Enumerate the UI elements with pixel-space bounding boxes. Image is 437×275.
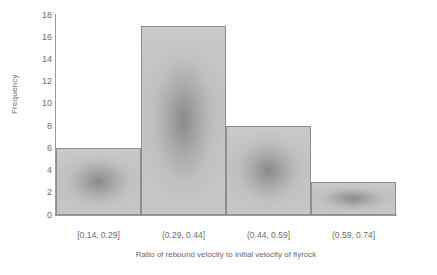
- y-tick-label: 6: [30, 144, 52, 153]
- bar-fill: [57, 149, 140, 214]
- y-tick-label: 12: [30, 77, 52, 86]
- x-tick-label: [0.14, 0.29]: [56, 230, 141, 240]
- y-tick-label: 0: [30, 211, 52, 220]
- histogram-chart: Frequency 024681012141618 [0.14, 0.29](0…: [0, 0, 437, 275]
- y-tick-label: 16: [30, 33, 52, 42]
- y-axis-tick-labels: 024681012141618: [26, 0, 52, 275]
- histogram-bar: [56, 148, 141, 215]
- y-axis-title: Frequency: [10, 34, 24, 114]
- histogram-bar: [141, 26, 226, 215]
- x-tick-label: (0.44, 0.59]: [226, 230, 311, 240]
- bar-fill: [312, 183, 395, 214]
- x-tick-label: (0.59, 0.74]: [311, 230, 396, 240]
- y-tick-label: 10: [30, 99, 52, 108]
- x-tick-label: (0.29, 0.44]: [141, 230, 226, 240]
- histogram-bar: [311, 182, 396, 215]
- bar-fill: [227, 127, 310, 214]
- bar-fill: [142, 27, 225, 214]
- x-axis-title: Ratio of rebound velocity to initial vel…: [56, 250, 396, 260]
- y-tick-label: 14: [30, 55, 52, 64]
- y-tick-label: 4: [30, 166, 52, 175]
- histogram-bar: [226, 126, 311, 215]
- y-tick-label: 18: [30, 11, 52, 20]
- y-tick-label: 2: [30, 188, 52, 197]
- y-tick-label: 8: [30, 122, 52, 131]
- x-axis-tick-labels: [0.14, 0.29](0.29, 0.44](0.44, 0.59](0.5…: [56, 230, 396, 244]
- x-axis-line: [55, 215, 397, 216]
- plot-area: [56, 15, 396, 215]
